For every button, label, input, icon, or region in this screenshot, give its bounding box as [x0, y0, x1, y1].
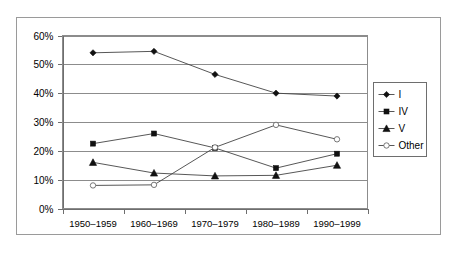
data-point-marker	[90, 50, 96, 56]
y-axis-tick-labels: 0%10%20%30%40%50%60%	[33, 31, 53, 215]
data-point-marker	[151, 48, 157, 54]
data-point-marker	[212, 71, 218, 77]
y-axis-tick-label: 10%	[33, 175, 53, 186]
data-point-marker	[212, 145, 217, 150]
data-series-group	[89, 48, 340, 188]
gridlines-group	[58, 36, 368, 210]
x-axis-category-label: 1960–1969	[130, 218, 178, 229]
data-point-marker	[274, 166, 279, 171]
data-point-marker	[335, 151, 340, 156]
legend-label-iv: IV	[399, 106, 409, 117]
data-point-marker	[152, 131, 157, 136]
x-axis-category-label: 1970–1979	[191, 218, 239, 229]
legend-label-v: V	[399, 123, 406, 134]
x-axis-category-labels: 1950–19591960–19691970–19791980–19891990…	[69, 218, 361, 229]
data-point-marker	[384, 143, 389, 148]
data-point-marker	[273, 90, 279, 96]
x-axis-category-label: 1950–1959	[69, 218, 117, 229]
data-point-marker	[90, 183, 95, 188]
y-axis-tick-label: 40%	[33, 88, 53, 99]
line-chart: 0%10%20%30%40%50%60% 1950–19591960–19691…	[0, 0, 451, 260]
y-axis-tick-label: 60%	[33, 31, 53, 42]
data-point-marker	[384, 109, 389, 114]
data-point-marker	[91, 141, 96, 146]
data-point-marker	[333, 162, 340, 169]
data-point-marker	[89, 159, 96, 166]
chart-legend: IIVVOther	[374, 83, 427, 157]
y-axis-tick-label: 0%	[39, 204, 54, 215]
data-point-marker	[334, 137, 339, 142]
data-point-marker	[151, 182, 156, 187]
y-axis-tick-label: 30%	[33, 117, 53, 128]
data-point-marker	[273, 122, 278, 127]
series-i	[90, 48, 340, 99]
chart-plot-wrapper: 0%10%20%30%40%50%60% 1950–19591960–19691…	[0, 0, 451, 260]
y-axis-tick-label: 20%	[33, 146, 53, 157]
legend-label-other: Other	[399, 140, 425, 151]
series-line	[93, 134, 337, 169]
legend-label-i: I	[399, 89, 402, 100]
x-axis-category-label: 1980–1989	[252, 218, 300, 229]
series-iv	[91, 131, 340, 171]
y-axis-tick-label: 50%	[33, 59, 53, 70]
x-axis-category-label: 1990–1999	[313, 218, 361, 229]
